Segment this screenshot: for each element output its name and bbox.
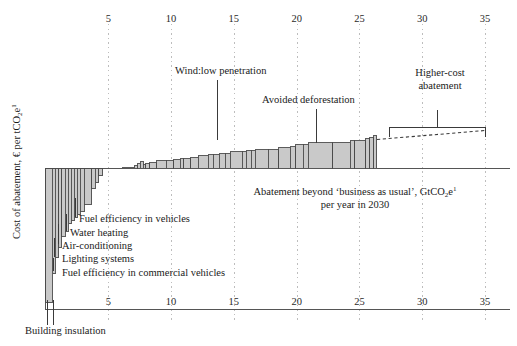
top-tick-5: 5 [106, 13, 111, 24]
callout-label-1: Water heating [70, 227, 129, 238]
bottom-tick-35: 35 [480, 296, 491, 307]
bar-42 [303, 145, 308, 169]
top-tick-25: 25 [354, 13, 365, 24]
bar-20 [146, 164, 150, 169]
bar-32 [225, 154, 230, 169]
bar-31 [219, 154, 225, 169]
svg-text:Wind:low penetration: Wind:low penetration [175, 65, 267, 76]
bar-21 [150, 163, 157, 169]
svg-text:Avoided deforestation: Avoided deforestation [262, 94, 356, 105]
bar-49 [374, 136, 377, 169]
bar-33 [230, 152, 242, 169]
bar-30 [213, 155, 219, 169]
top-tick-30: 30 [417, 13, 428, 24]
top-tick-15: 15 [229, 13, 240, 24]
bar-43 [308, 143, 332, 169]
bottom-tick-20: 20 [291, 296, 302, 307]
bar-29 [208, 155, 213, 169]
bottom-tick-10: 10 [166, 296, 177, 307]
bottom-tick-15: 15 [229, 296, 240, 307]
bar-44 [333, 143, 351, 169]
bar-22 [157, 161, 166, 169]
bar-16 [134, 166, 138, 169]
bar-28 [198, 156, 208, 169]
bar-27 [191, 158, 199, 169]
chart-canvas: 5101520253035 5101520253035 Cost of abat… [0, 0, 517, 346]
bar-47 [366, 139, 370, 169]
bar-40 [290, 147, 295, 169]
bar-14 [99, 169, 103, 176]
bar-12 [92, 169, 95, 189]
bar-4 [62, 169, 66, 237]
bar-10 [80, 169, 84, 212]
bar-36 [251, 151, 255, 169]
bottom-tick-25: 25 [354, 296, 365, 307]
top-tick-20: 20 [291, 13, 302, 24]
callout-label-2: Air-conditioning [62, 240, 133, 251]
top-tick-35: 35 [480, 13, 491, 24]
callout-label-0: Fuel efficiency in vehicles [79, 213, 190, 224]
bar-39 [279, 148, 290, 169]
bar-23 [166, 161, 174, 169]
bar-26 [184, 159, 191, 169]
abatement-cost-curve-chart: 5101520253035 5101520253035 Cost of abat… [0, 0, 517, 346]
bottom-tick-5: 5 [106, 296, 111, 307]
top-tick-10: 10 [166, 13, 177, 24]
bar-15 [122, 168, 134, 169]
bar-48 [370, 138, 374, 169]
bar-34 [242, 152, 246, 169]
bar-45 [350, 141, 354, 169]
svg-text:per year in 2030: per year in 2030 [321, 199, 390, 210]
bar-46 [355, 141, 366, 169]
bar-11 [84, 169, 92, 205]
bar-0 [46, 169, 53, 303]
bar-2 [55, 169, 59, 258]
bar-13 [95, 169, 99, 183]
callout-label-5: Building insulation [25, 325, 107, 336]
bar-24 [174, 160, 180, 169]
bar-37 [255, 150, 268, 169]
bar-35 [246, 151, 251, 169]
callout-label-3: Lighting systems [62, 253, 134, 264]
callout-label-4: Fuel efficiency in commercial vehicles [62, 267, 225, 278]
bar-6 [68, 169, 71, 224]
svg-text:abatement: abatement [418, 80, 461, 91]
bar-38 [268, 150, 279, 169]
bar-25 [180, 159, 184, 169]
bottom-tick-30: 30 [417, 296, 428, 307]
bar-41 [296, 145, 304, 169]
svg-text:Higher-cost: Higher-cost [415, 67, 464, 78]
